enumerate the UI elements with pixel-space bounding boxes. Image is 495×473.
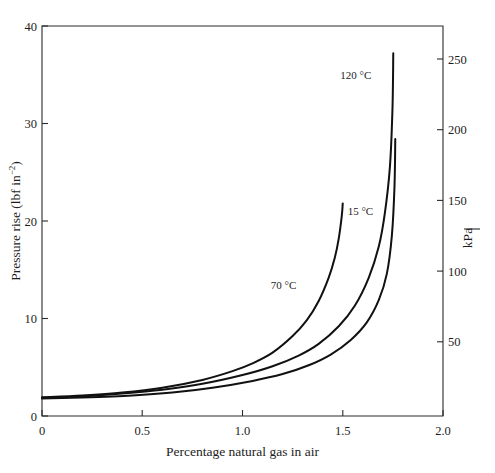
chart-plot: 40 30 20 10 0 0 0.5 1.0 1.5 2.0	[0, 0, 495, 473]
y2-axis-ticks	[437, 59, 443, 342]
figure-container: 40 30 20 10 0 0 0.5 1.0 1.5 2.0	[0, 0, 495, 473]
curve-group	[42, 53, 395, 398]
y-axis-title-tail: )	[8, 161, 23, 166]
curve-label-120c: 120 °C	[340, 69, 371, 81]
x-ticklabel-2-0: 2.0	[435, 424, 451, 438]
y2-axis-title: kPa	[460, 228, 475, 248]
y-ticklabel-40: 40	[25, 20, 38, 34]
x-axis-title: Percentage natural gas in air	[166, 444, 319, 459]
y-axis-ticklabels: 40 30 20 10 0	[25, 20, 38, 424]
x-ticklabel-0-5: 0.5	[134, 424, 150, 438]
x-axis-ticklabels: 0 0.5 1.0 1.5 2.0	[39, 424, 451, 438]
x-ticklabel-0: 0	[39, 424, 45, 438]
y2-ticklabel-50: 50	[448, 335, 461, 349]
curve-15c	[42, 139, 395, 398]
y2-ticklabel-200: 200	[448, 123, 467, 137]
curve-label-70c: 70 °C	[271, 279, 297, 291]
y-ticklabel-30: 30	[25, 117, 38, 131]
y-ticklabel-0: 0	[31, 410, 37, 424]
x-ticklabel-1-5: 1.5	[335, 424, 351, 438]
y2-ticklabel-150: 150	[448, 194, 467, 208]
y2-axis-ticklabels: 250 200 150 100 50	[448, 53, 467, 350]
y2-ticklabel-100: 100	[448, 265, 467, 279]
y-ticklabel-20: 20	[25, 215, 38, 229]
curve-labels: 70 °C 120 °C 15 °C	[271, 69, 373, 292]
curve-label-15c: 15 °C	[348, 205, 374, 217]
y-ticklabel-10: 10	[25, 312, 38, 326]
y-axis-title-main: Pressure rise (lbf in	[8, 175, 23, 281]
y-axis-title-exponent: −2	[7, 166, 17, 176]
y-axis-title: Pressure rise (lbf in−2)	[7, 161, 23, 280]
x-axis-ticks	[42, 410, 443, 416]
y-axis-ticks	[42, 26, 48, 416]
x-ticklabel-1-0: 1.0	[235, 424, 251, 438]
y2-ticklabel-250: 250	[448, 53, 467, 67]
